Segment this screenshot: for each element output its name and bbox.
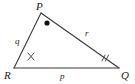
side-label-q: q [15,37,20,46]
vertex-label-q: Q [121,70,129,81]
triangle-graphic [0,0,135,84]
angle-p-dot-icon [44,20,49,25]
side-label-p: p [60,72,65,81]
triangle-figure: P R Q q r p [0,0,135,84]
side-label-r: r [85,29,89,38]
vertex-label-p: P [36,1,43,12]
angle-r-x-icon [28,53,34,60]
vertex-label-r: R [4,70,11,81]
side-r-line [41,13,119,68]
